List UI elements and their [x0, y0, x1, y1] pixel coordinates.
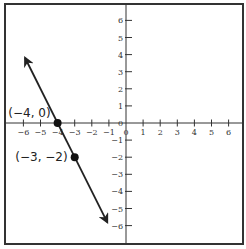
line-series [25, 58, 107, 222]
y-tick-label: 3 [118, 68, 123, 77]
x-tick-label: 1 [141, 128, 146, 137]
data-point [54, 119, 62, 127]
y-tick-label: −1 [111, 136, 123, 145]
y-tick-label: 6 [118, 16, 123, 25]
y-tick-label: −4 [111, 187, 123, 196]
y-tick-label: −2 [111, 153, 123, 162]
x-tick-label: 5 [209, 128, 214, 137]
y-tick-label: 0 [118, 119, 123, 128]
x-tick-label: 4 [192, 128, 197, 137]
y-tick-label: −6 [111, 222, 123, 231]
y-tick-label: −5 [111, 205, 123, 214]
point-label: (−4, 0) [8, 106, 50, 120]
x-tick-label: 6 [226, 128, 231, 137]
x-tick-label: −2 [86, 128, 98, 137]
x-tick-label: −5 [35, 128, 47, 137]
y-tick-label: 5 [118, 34, 123, 43]
y-tick-label: 2 [118, 85, 123, 94]
x-tick-label: 0 [123, 128, 128, 137]
y-tick-label: 1 [118, 102, 123, 111]
x-tick-label: −3 [69, 128, 81, 137]
coordinate-plane: −6−5−4−3−2−1123456−6−5−4−3−2−112345600 (… [0, 0, 246, 249]
x-tick-label: −6 [18, 128, 30, 137]
x-tick-label: 2 [158, 128, 163, 137]
data-point [71, 153, 79, 161]
y-tick-label: −3 [111, 170, 123, 179]
y-tick-label: 4 [118, 51, 123, 60]
point-label: (−3, −2) [15, 150, 67, 164]
x-tick-label: 3 [175, 128, 180, 137]
